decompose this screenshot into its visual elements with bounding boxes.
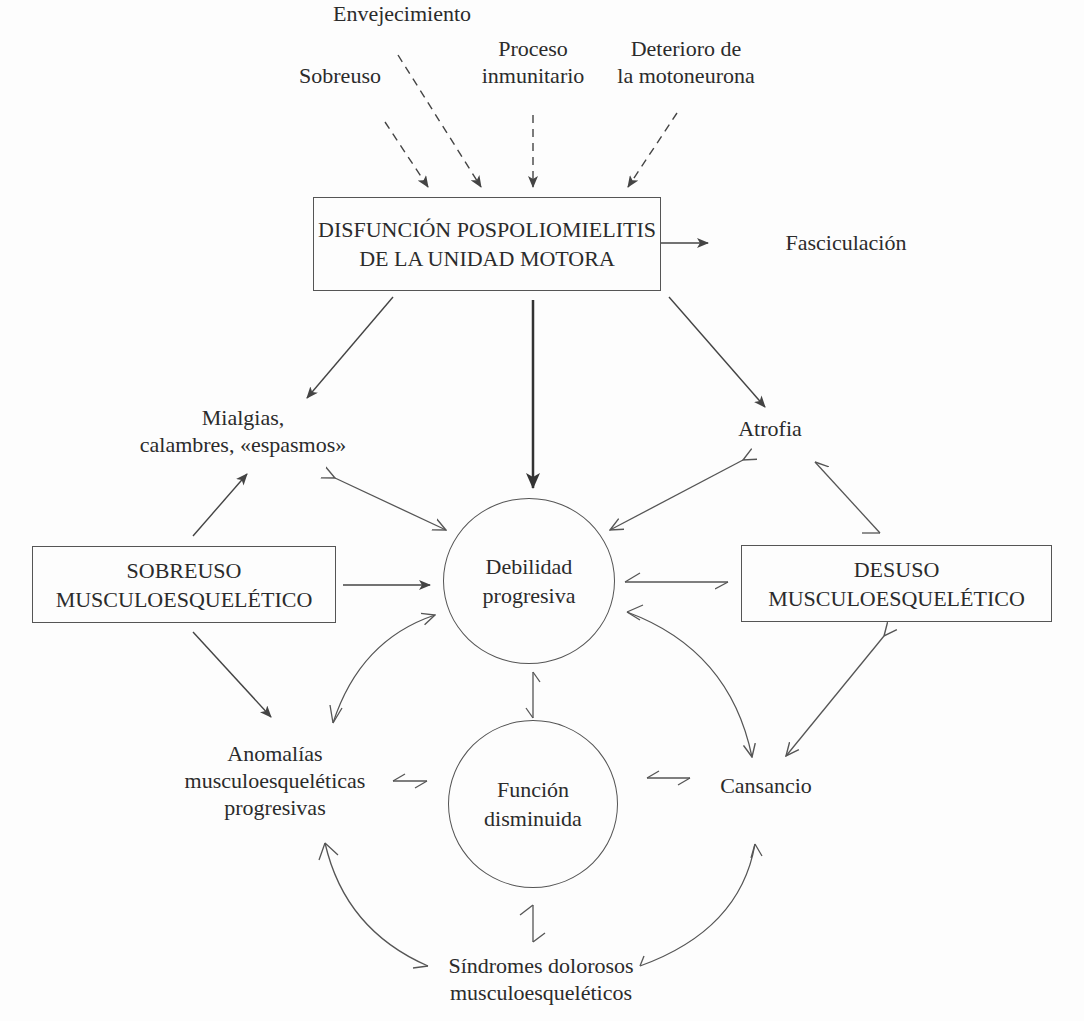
circle-funcion-disminuida: Función disminuida: [448, 720, 618, 888]
label-mialgias: Mialgias, calambres, «espasmos»: [140, 404, 347, 458]
label-fasciculacion: Fasciculación: [786, 229, 907, 256]
main-box-disfuncion: DISFUNCIÓN POSPOLIOMIELITIS DE LA UNIDAD…: [313, 197, 661, 291]
label-sobreuso: Sobreuso: [299, 62, 381, 89]
box-sobreuso-musculoesqueletico: SOBREUSO MUSCULOESQUELÉTICO: [32, 546, 336, 623]
label-cansancio: Cansancio: [720, 772, 812, 799]
circle-debilidad-progresiva: Debilidad progresiva: [443, 498, 615, 664]
label-sindromes-dolorosos: Síndromes dolorosos musculoesqueléticos: [448, 952, 633, 1006]
label-proceso-inmunitario: Proceso inmunitario: [482, 35, 585, 89]
label-atrofia: Atrofia: [738, 415, 802, 442]
arrow-deterioro-to-main: [628, 113, 677, 187]
arrow-sobreuso-to-main: [385, 122, 428, 187]
label-envejecimiento: Envejecimiento: [333, 0, 471, 27]
arrow-envejecimiento-to-main: [398, 55, 481, 187]
label-deterioro-motoneurona: Deterioro de la motoneurona: [617, 35, 754, 89]
diagram-canvas: Envejecimiento Proceso inmunitario Sobre…: [0, 0, 1084, 1021]
box-desuso-musculoesqueletico: DESUSO MUSCULOESQUELÉTICO: [741, 545, 1052, 622]
label-anomalias: Anomalías musculoesqueléticas progresiva…: [185, 740, 366, 821]
